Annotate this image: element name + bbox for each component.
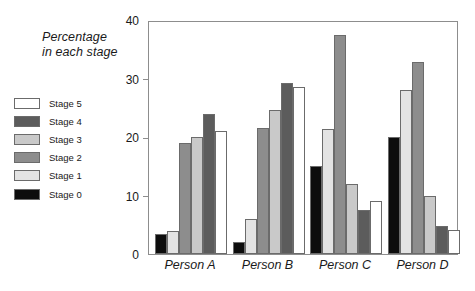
bar-person-d-stage-2[interactable] [412,62,424,254]
bar-group [155,22,227,254]
legend-item[interactable]: Stage 0 [14,185,126,203]
bar-person-b-stage-2[interactable] [257,128,269,254]
bar-person-d-stage-1[interactable] [400,90,412,254]
x-axis-label: Person A [165,258,216,272]
bar-person-c-stage-1[interactable] [322,129,334,254]
legend-swatch-stage-3 [14,134,40,145]
chart-legend: Stage 5Stage 4Stage 3Stage 2Stage 1Stage… [14,94,126,203]
bar-person-a-stage-2[interactable] [179,143,191,254]
bar-person-a-stage-3[interactable] [191,137,203,254]
bar-person-b-stage-3[interactable] [269,110,281,254]
bar-person-b-stage-1[interactable] [245,219,257,254]
legend-swatch-stage-1 [14,170,40,181]
bar-person-c-stage-5[interactable] [370,201,382,254]
plot-area [148,21,458,255]
x-axis-label: Person B [242,258,293,272]
bar-person-a-stage-4[interactable] [203,114,215,254]
y-tick-label: 10 [126,190,139,202]
legend-item[interactable]: Stage 4 [14,112,126,130]
bar-group [310,22,382,254]
bar-person-d-stage-3[interactable] [424,196,436,255]
y-tick-label: 40 [126,15,139,27]
legend-swatch-stage-4 [14,116,40,127]
x-axis-label: Person D [396,258,448,272]
legend-swatch-stage-0 [14,189,40,200]
bar-person-b-stage-5[interactable] [293,87,305,254]
legend-swatch-stage-5 [14,98,40,109]
x-axis-label: Person C [319,258,371,272]
legend-label: Stage 5 [49,98,82,109]
legend-swatch-stage-2 [14,152,40,163]
bar-person-d-stage-0[interactable] [388,137,400,254]
legend-item[interactable]: Stage 2 [14,149,126,167]
legend-label: Stage 3 [49,134,82,145]
legend-label: Stage 4 [49,116,82,127]
x-axis: Person APerson BPerson CPerson D [148,258,458,280]
bar-person-c-stage-0[interactable] [310,166,322,254]
bar-person-a-stage-5[interactable] [215,131,227,254]
bar-group [233,22,305,254]
y-tick-label: 20 [126,132,139,144]
bar-person-d-stage-4[interactable] [436,226,448,254]
legend-item[interactable]: Stage 1 [14,167,126,185]
legend-label: Stage 2 [49,152,82,163]
y-tick-label: 30 [126,73,139,85]
legend-item[interactable]: Stage 5 [14,94,126,112]
bar-person-d-stage-5[interactable] [448,230,460,254]
legend-label: Stage 0 [49,189,82,200]
legend-item[interactable]: Stage 3 [14,130,126,148]
bar-person-b-stage-0[interactable] [233,242,245,254]
bar-group [388,22,460,254]
bar-person-a-stage-0[interactable] [155,234,167,254]
bar-person-b-stage-4[interactable] [281,83,293,254]
y-axis: 010203040 [118,21,148,255]
y-tick-label: 0 [132,249,139,261]
bars-layer [149,22,457,254]
bar-person-c-stage-2[interactable] [334,35,346,254]
bar-person-a-stage-1[interactable] [167,231,179,254]
legend-label: Stage 1 [49,170,82,181]
bar-person-c-stage-4[interactable] [358,210,370,254]
bar-person-c-stage-3[interactable] [346,184,358,254]
